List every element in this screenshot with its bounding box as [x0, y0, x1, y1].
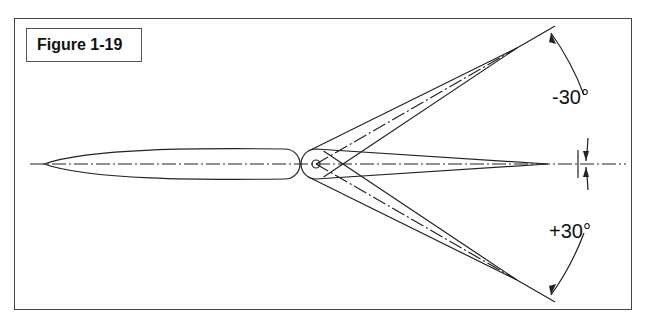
angle-label-down: +30°: [549, 220, 591, 243]
arrowhead: [583, 151, 589, 161]
deflection-diagram: [0, 0, 650, 331]
angle-label-up: -30°: [552, 86, 589, 109]
rudder-up: [309, 13, 563, 177]
rudder-down: [309, 151, 563, 315]
arrowhead: [583, 167, 589, 177]
